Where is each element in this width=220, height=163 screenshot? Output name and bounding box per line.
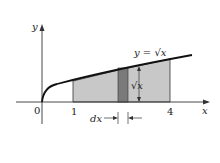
- dx-right-arrow-icon: [128, 116, 133, 120]
- dx-label: dx: [90, 113, 102, 124]
- dx-strip: [118, 68, 128, 102]
- area-under-sqrt-diagram: y x 0 1 4 y = √x √x dx: [0, 0, 220, 163]
- y-axis-arrow-icon: [40, 24, 45, 31]
- tick-1-label: 1: [71, 106, 77, 117]
- curve-label: y = √x: [133, 47, 167, 58]
- dx-left-arrow-icon: [113, 116, 118, 120]
- tick-4-label: 4: [167, 106, 173, 117]
- x-axis-arrow-icon: [203, 100, 210, 105]
- origin-label: 0: [34, 105, 40, 116]
- strip-height-label: √x: [131, 80, 143, 91]
- x-axis-label: x: [202, 105, 208, 116]
- y-axis-label: y: [31, 21, 38, 32]
